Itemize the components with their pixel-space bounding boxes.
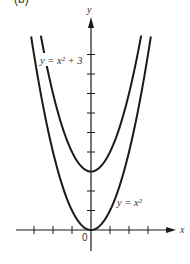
x-axis-label: x (179, 224, 185, 235)
y-axis-label: y (86, 4, 92, 15)
y-axis: y (86, 4, 95, 251)
curve-label-x-squared-plus-3: y = x² + 3 (39, 55, 82, 66)
curve-label-x-squared: y = x² (116, 197, 143, 208)
x-axis-arrow-icon (166, 227, 176, 233)
parabola-graph: (b) x y 0 y = x² + 3 y = x² (0, 0, 190, 264)
panel-label: (b) (14, 0, 29, 6)
origin-label: 0 (82, 232, 88, 243)
y-axis-arrow-icon (88, 17, 94, 28)
